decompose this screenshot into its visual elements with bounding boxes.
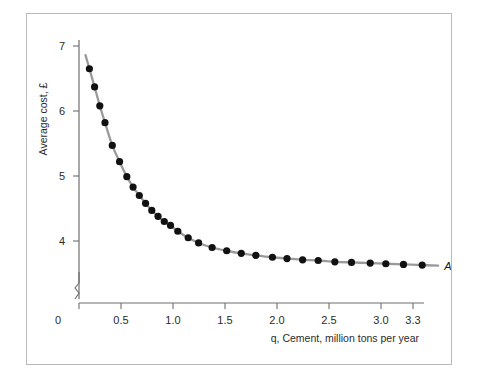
- data-point: [129, 183, 136, 190]
- data-point: [136, 192, 143, 199]
- y-tick-label-5: 5: [59, 170, 65, 182]
- data-point: [400, 261, 407, 268]
- data-point: [299, 256, 306, 263]
- data-point: [419, 261, 426, 268]
- data-point: [223, 247, 230, 254]
- data-point: [367, 260, 374, 267]
- x-tick-label-0: 0: [55, 314, 61, 326]
- data-point: [86, 65, 93, 72]
- data-point: [148, 207, 155, 214]
- y-tick-label-6: 6: [59, 105, 65, 117]
- x-tick-label-3-3: 3.3: [405, 314, 420, 326]
- data-point: [382, 260, 389, 267]
- x-tick-label-0-5: 0.5: [113, 314, 128, 326]
- x-tick-marks: [79, 303, 413, 309]
- data-point: [91, 83, 98, 90]
- data-point: [238, 250, 245, 257]
- data-point: [142, 200, 149, 207]
- figure-frame: 7 6 5 4 0 0.5 1.0 1.5 2.0 2.5 3.0 3.3 Av…: [26, 13, 452, 365]
- y-tick-label-7: 7: [59, 40, 65, 52]
- data-point: [195, 239, 202, 246]
- ac-data-points: [86, 65, 426, 269]
- data-point: [331, 258, 338, 265]
- ac-curve: [86, 55, 439, 266]
- y-tick-marks: [73, 46, 79, 241]
- data-point: [167, 222, 174, 229]
- data-point: [161, 218, 168, 225]
- data-point: [154, 213, 161, 220]
- data-point: [109, 142, 116, 149]
- series-label-ac: AC: [443, 260, 451, 272]
- data-point: [348, 259, 355, 266]
- x-tick-label-3-0: 3.0: [373, 314, 388, 326]
- average-cost-chart: 7 6 5 4 0 0.5 1.0 1.5 2.0 2.5 3.0 3.3 Av…: [27, 14, 451, 364]
- x-tick-label-2-5: 2.5: [321, 314, 336, 326]
- data-point: [209, 244, 216, 251]
- data-point: [116, 158, 123, 165]
- data-point: [96, 102, 103, 109]
- y-axis-title: Average cost, £: [37, 82, 49, 155]
- data-point: [174, 228, 181, 235]
- data-point: [123, 173, 130, 180]
- data-point: [101, 119, 108, 126]
- data-point: [269, 254, 276, 261]
- y-tick-label-4: 4: [59, 235, 65, 247]
- x-tick-label-2-0: 2.0: [269, 314, 284, 326]
- data-point: [315, 257, 322, 264]
- x-axis-title: q, Cement, million tons per year: [271, 332, 420, 344]
- data-point: [252, 252, 259, 259]
- data-point: [283, 255, 290, 262]
- x-tick-label-1-0: 1.0: [165, 314, 180, 326]
- data-point: [185, 234, 192, 241]
- x-tick-label-1-5: 1.5: [217, 314, 232, 326]
